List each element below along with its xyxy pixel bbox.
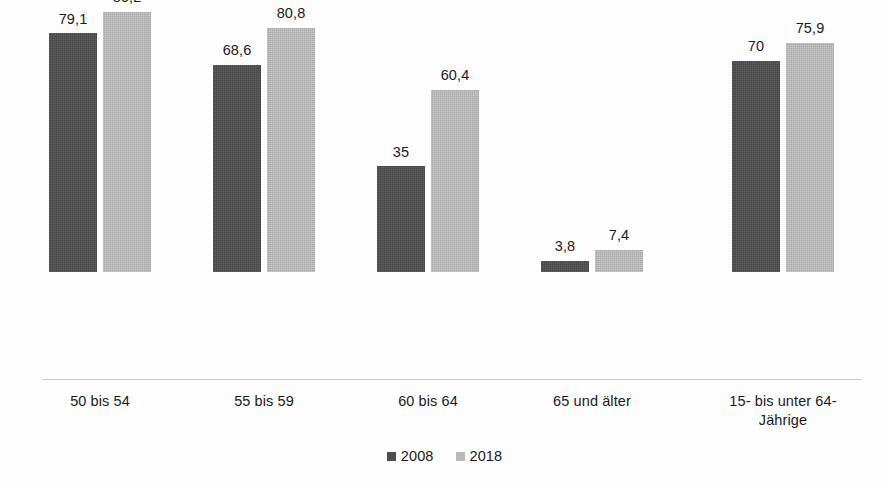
legend-label-2008: 2008 [401, 449, 434, 464]
category-label-line: 55 bis 59 [190, 392, 338, 411]
bar-column[interactable]: 3,8 [541, 0, 589, 272]
bar-group-bars: 3,87,4 [518, 0, 666, 272]
x-axis-category-label: 60 bis 64 [354, 392, 502, 411]
bar-2018[interactable] [595, 250, 643, 272]
bar-2008[interactable] [213, 65, 261, 272]
category-label-line: 15- bis unter 64- [709, 392, 857, 411]
bar-column[interactable]: 86,2 [103, 0, 151, 272]
bar-2018[interactable] [431, 90, 479, 272]
x-axis-category-label: 50 bis 54 [26, 392, 174, 411]
bar-value-label: 75,9 [796, 21, 825, 36]
bar-group-bars: 79,186,2 [26, 0, 174, 272]
bar-value-label: 79,1 [59, 12, 88, 27]
bar-2008[interactable] [732, 61, 780, 272]
x-axis-category-label: 65 und älter [518, 392, 666, 411]
bar-2018[interactable] [786, 43, 834, 272]
bar-value-label: 7,4 [609, 228, 629, 243]
category-label-line: 60 bis 64 [354, 392, 502, 411]
bar-group-bars: 7075,9 [709, 0, 857, 272]
bar-column[interactable]: 60,4 [431, 0, 479, 272]
bar-group: 7075,9 [709, 0, 857, 272]
category-label-line: 50 bis 54 [26, 392, 174, 411]
bar-value-label: 3,8 [555, 239, 575, 254]
bar-chart: 79,186,268,680,83560,43,87,47075,9 50 bi… [0, 0, 889, 487]
bar-2018[interactable] [103, 12, 151, 272]
chart-legend: 2008 2018 [0, 449, 889, 464]
category-label-line: 65 und älter [518, 392, 666, 411]
legend-swatch-icon-2018 [456, 452, 465, 461]
bar-column[interactable]: 7,4 [595, 0, 643, 272]
bar-2018[interactable] [267, 28, 315, 272]
bar-group: 79,186,2 [26, 0, 174, 272]
bar-column[interactable]: 75,9 [786, 0, 834, 272]
bar-group-bars: 68,680,8 [190, 0, 338, 272]
legend-item-2008[interactable]: 2008 [387, 449, 434, 464]
legend-label-2018: 2018 [470, 449, 503, 464]
bar-2008[interactable] [541, 261, 589, 272]
bar-group-bars: 3560,4 [354, 0, 502, 272]
x-axis-category-label: 15- bis unter 64-Jährige [709, 392, 857, 430]
bar-value-label: 68,6 [223, 43, 252, 58]
bar-value-label: 35 [393, 145, 409, 160]
x-axis-baseline [42, 379, 862, 380]
bar-2008[interactable] [49, 33, 97, 272]
category-label-line: Jährige [709, 411, 857, 430]
bar-2008[interactable] [377, 166, 425, 272]
plot-area: 79,186,268,680,83560,43,87,47075,9 50 bi… [0, 0, 889, 380]
bar-value-label: 70 [748, 39, 764, 54]
bar-column[interactable]: 68,6 [213, 0, 261, 272]
bar-column[interactable]: 70 [732, 0, 780, 272]
legend-swatch-icon-2008 [387, 452, 396, 461]
bar-value-label: 80,8 [277, 6, 306, 21]
bar-column[interactable]: 80,8 [267, 0, 315, 272]
legend-item-2018[interactable]: 2018 [456, 449, 503, 464]
bar-value-label: 60,4 [441, 68, 470, 83]
bar-value-label: 86,2 [113, 0, 142, 5]
bar-group: 3,87,4 [518, 0, 666, 272]
bar-column[interactable]: 79,1 [49, 0, 97, 272]
x-axis-category-label: 55 bis 59 [190, 392, 338, 411]
bar-group: 3560,4 [354, 0, 502, 272]
bar-column[interactable]: 35 [377, 0, 425, 272]
bar-group: 68,680,8 [190, 0, 338, 272]
